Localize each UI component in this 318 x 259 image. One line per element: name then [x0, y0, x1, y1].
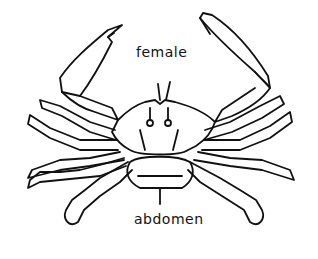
carapace: [112, 100, 215, 155]
crab-diagram: female abdomen: [0, 0, 318, 259]
antennae: [158, 82, 170, 100]
left-claw: [60, 25, 122, 120]
abdomen-plate: [127, 157, 193, 204]
label-female: female: [136, 44, 187, 60]
label-abdomen: abdomen: [134, 211, 204, 227]
right-legs: [188, 96, 294, 224]
